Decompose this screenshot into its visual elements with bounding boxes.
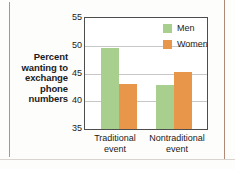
bar-nontraditional-men [156,85,174,129]
page-rule-bottom [0,159,235,160]
legend-item-men: Men [163,23,208,33]
legend-item-women: Women [163,39,208,49]
x-category-line: event [141,144,213,155]
x-category-line: Traditional [84,133,146,144]
page-rule-left [9,2,10,157]
x-category-traditional: Traditional event [84,133,146,155]
bar-traditional-men [101,48,119,129]
x-category-nontraditional: Nontraditional event [141,133,213,155]
x-category-line: event [84,144,146,155]
y-tick-label: 45 [52,68,82,78]
y-tick-label: 50 [52,40,82,50]
legend-swatch-icon [163,40,172,49]
bar-nontraditional-women [174,72,192,129]
x-category-line: Nontraditional [141,133,213,144]
chart-legend: Men Women [163,23,208,55]
y-axis-title-line: Percent [14,52,68,63]
chart-figure: Percent wanting to exchange phone number… [0,0,235,169]
legend-label: Women [177,39,208,49]
legend-label: Men [177,23,195,33]
legend-swatch-icon [163,24,172,33]
y-tick-label: 35 [52,123,82,133]
bar-traditional-women [119,84,137,129]
y-tick-label: 55 [52,12,82,22]
plot-area: Men Women [84,17,208,130]
page-rule-right [224,0,225,160]
y-tick-label: 40 [52,95,82,105]
